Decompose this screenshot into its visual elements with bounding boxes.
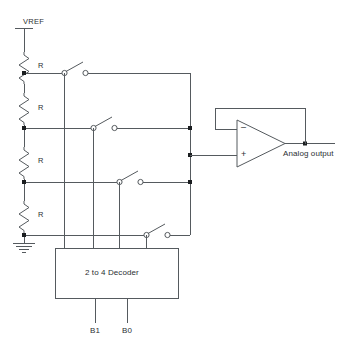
input-label-b0: B0	[122, 327, 132, 335]
input-label-b1: B1	[90, 327, 100, 335]
resistor-label-r3: R	[38, 157, 44, 165]
switch-3-right-contact[interactable]	[138, 179, 143, 184]
circuit-schematic	[0, 0, 355, 352]
resistor-r2-symbol	[19, 93, 29, 125]
vref-label: VREF	[23, 18, 44, 26]
analog-output-label: Analog output	[283, 150, 334, 158]
opamp-noninverting-input-sign: +	[241, 150, 246, 159]
switch-3-blade[interactable]	[121, 171, 138, 181]
bus-junction-dot-2	[188, 126, 192, 130]
schematic-canvas: VREF R R R R – + Analog output 2 to 4 De…	[0, 0, 355, 352]
switch-1-blade[interactable]	[66, 62, 83, 72]
switch-1-right-contact[interactable]	[83, 70, 88, 75]
resistor-label-r2: R	[38, 104, 44, 112]
resistor-r1-symbol	[19, 52, 29, 84]
tap-node-dot-3	[22, 180, 26, 184]
tap-node-dot-2	[22, 126, 26, 130]
resistor-label-r1: R	[38, 62, 44, 70]
tap-node-dot-1	[22, 71, 26, 75]
opamp-inverting-input-sign: –	[241, 123, 246, 132]
bus-junction-dot-3	[188, 180, 192, 184]
switch-4-right-contact[interactable]	[165, 232, 170, 237]
resistor-r3-symbol	[19, 147, 29, 179]
switch-4-blade[interactable]	[148, 224, 165, 234]
tap-node-dot-4	[22, 233, 26, 237]
decoder-label: 2 to 4 Decoder	[85, 269, 139, 277]
resistor-label-r4: R	[38, 211, 44, 219]
switch-2-blade[interactable]	[95, 117, 112, 127]
resistor-r4-symbol	[19, 201, 29, 233]
switch-2-right-contact[interactable]	[112, 125, 117, 130]
